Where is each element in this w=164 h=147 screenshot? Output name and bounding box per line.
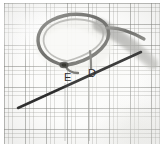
label-d: D <box>88 68 96 79</box>
figure-container: E D <box>0 0 164 147</box>
crossing-node <box>59 62 68 68</box>
specimen-drawing <box>4 3 160 144</box>
label-e: E <box>64 72 71 83</box>
micrograph-plate: E D <box>4 3 160 144</box>
